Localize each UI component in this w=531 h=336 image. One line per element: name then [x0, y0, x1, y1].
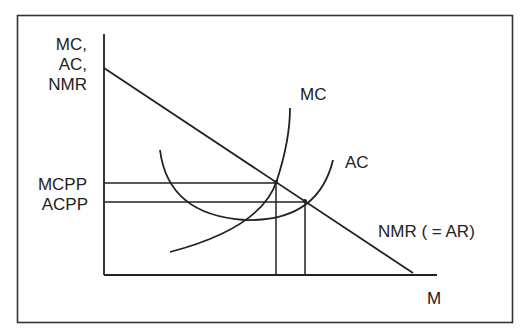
nmr-curve-label: NMR ( = AR)	[378, 222, 475, 241]
outer-frame	[18, 16, 513, 323]
y-axis-label-line-3: NMR	[48, 75, 87, 94]
y-axis-label-line-2: AC,	[59, 55, 87, 74]
diagram-canvas: MC, AC, NMR M MCPP ACPP MC AC NMR ( = AR…	[0, 0, 531, 336]
acpp-label: ACPP	[42, 195, 88, 214]
ac-curve-label: AC	[345, 153, 369, 172]
y-axis-label-line-1: MC,	[56, 35, 87, 54]
x-axis-label: M	[427, 289, 441, 308]
mcpp-label: MCPP	[38, 175, 87, 194]
ac-curve	[160, 150, 333, 220]
mc-curve-label: MC	[300, 85, 326, 104]
mc-nmr-intersection	[274, 180, 278, 184]
ac-nmr-intersection	[303, 199, 307, 203]
